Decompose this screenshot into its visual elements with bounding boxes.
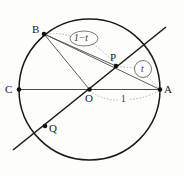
annotation-label-t: t bbox=[141, 65, 144, 75]
leader-unit-to-a bbox=[130, 91, 159, 100]
geometry-figure: A B C O P Q 1−t t 1 bbox=[0, 0, 184, 176]
point-label-O: O bbox=[85, 93, 93, 104]
point-C bbox=[17, 87, 22, 92]
point-Q bbox=[43, 124, 48, 129]
point-label-P: P bbox=[110, 52, 116, 63]
point-A bbox=[158, 87, 163, 92]
point-B bbox=[42, 32, 47, 37]
point-label-A: A bbox=[164, 84, 172, 95]
annotation-label-one-minus-t: 1−t bbox=[74, 34, 88, 44]
figure-canvas bbox=[0, 0, 184, 176]
point-label-Q: Q bbox=[49, 123, 57, 134]
leader-one-minus-t-to-b bbox=[47, 34, 71, 36]
leader-unit-to-o bbox=[92, 92, 119, 100]
annotation-label-unit-length: 1 bbox=[121, 95, 126, 105]
leader-t-to-p bbox=[118, 67, 135, 69]
point-P bbox=[114, 64, 119, 69]
point-label-C: C bbox=[5, 84, 12, 95]
point-label-B: B bbox=[32, 24, 39, 35]
